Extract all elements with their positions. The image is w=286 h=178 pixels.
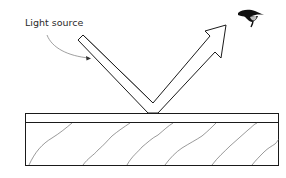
observer-eye xyxy=(238,10,264,27)
wood-substrate xyxy=(26,114,279,166)
reflected-light-arrow xyxy=(78,25,226,113)
diagram-canvas xyxy=(0,0,286,178)
